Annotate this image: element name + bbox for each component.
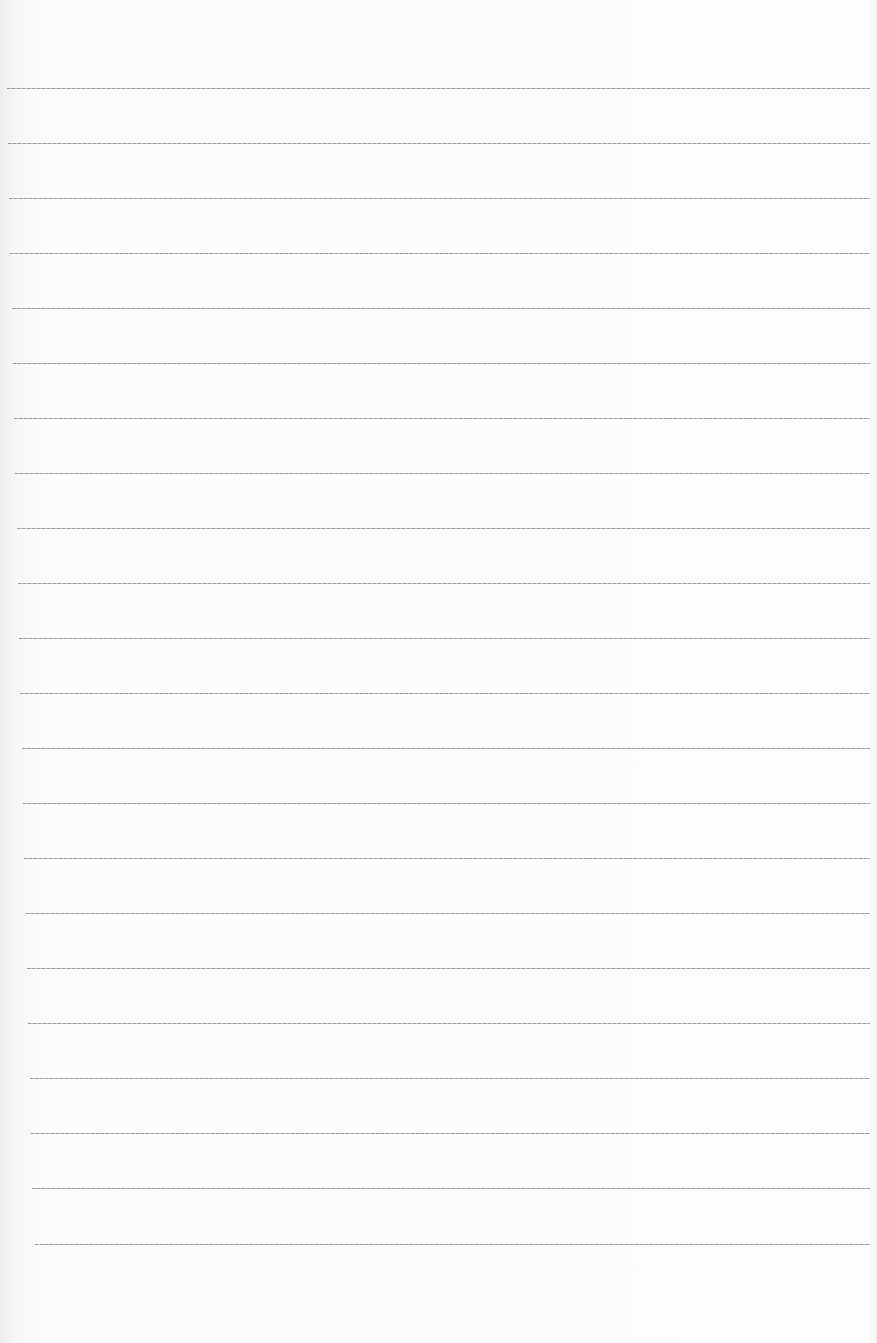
ruled-line: [31, 1133, 870, 1134]
ruled-line: [35, 1244, 870, 1245]
ruled-line: [7, 88, 870, 89]
ruled-line: [14, 418, 870, 419]
ruled-line: [23, 803, 870, 804]
ruled-line: [17, 528, 870, 529]
ruled-line: [15, 473, 870, 474]
ruled-line: [12, 308, 870, 309]
ruled-line: [28, 1023, 870, 1024]
ruled-line: [32, 1188, 870, 1189]
ruled-line: [10, 253, 870, 254]
ruled-line: [26, 913, 870, 914]
lined-paper-page: [0, 0, 877, 1343]
ruled-line: [19, 638, 870, 639]
ruled-line: [27, 968, 870, 969]
ruled-line: [18, 583, 870, 584]
ruled-line: [20, 693, 870, 694]
ruled-line: [24, 858, 870, 859]
ruled-line: [8, 143, 870, 144]
ruled-line: [22, 748, 870, 749]
page-edge-shadow: [869, 0, 877, 1343]
ruled-line: [9, 198, 870, 199]
ruled-line: [13, 363, 870, 364]
ruled-line: [30, 1078, 870, 1079]
